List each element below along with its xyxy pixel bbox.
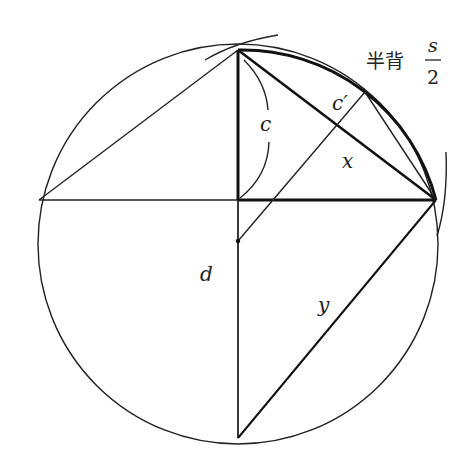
c-brace-lower bbox=[240, 142, 269, 198]
label-y: y bbox=[317, 293, 330, 317]
label-half-arc: 半背 bbox=[366, 50, 404, 72]
compass-arc-right bbox=[437, 152, 446, 236]
chord-left-top bbox=[39, 50, 238, 200]
inner-point bbox=[236, 239, 240, 243]
geometry-diagram: c c′ x d y 半背 s 2 bbox=[0, 0, 475, 465]
compass-arc-top bbox=[205, 35, 278, 60]
fraction-numerator: s bbox=[428, 34, 438, 56]
c-brace-upper bbox=[244, 60, 268, 110]
label-x: x bbox=[342, 149, 353, 173]
label-d: d bbox=[200, 262, 213, 286]
chord-y bbox=[238, 200, 436, 438]
label-c: c bbox=[260, 112, 271, 136]
fraction-denominator: 2 bbox=[427, 66, 439, 88]
chord-mid-right bbox=[365, 92, 436, 200]
label-c-prime: c′ bbox=[332, 91, 348, 115]
